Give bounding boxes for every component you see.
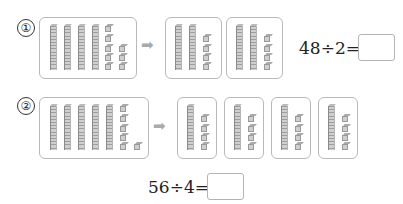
ten-rod bbox=[187, 106, 194, 150]
unit-cube bbox=[134, 144, 140, 150]
problem-number-1: ① bbox=[17, 19, 35, 37]
ten-rod bbox=[92, 26, 99, 70]
ten-rod bbox=[92, 106, 99, 150]
unit-cube bbox=[105, 46, 111, 52]
ten-rod bbox=[78, 106, 85, 150]
ten-rod bbox=[328, 106, 335, 150]
problem-number-2: ② bbox=[17, 97, 35, 115]
unit-cube bbox=[342, 135, 348, 141]
equation-2: 56÷4= bbox=[148, 177, 209, 197]
unit-cube bbox=[264, 36, 270, 42]
unit-cube bbox=[295, 144, 301, 150]
unit-cube bbox=[201, 126, 207, 132]
unit-cube bbox=[203, 55, 209, 61]
unit-cube bbox=[295, 116, 301, 122]
unit-cube bbox=[264, 55, 270, 61]
right-arrow-icon: ➡ bbox=[153, 117, 166, 135]
answer-box-1[interactable] bbox=[358, 34, 395, 61]
unit-cube bbox=[105, 26, 111, 32]
ten-rod bbox=[78, 26, 85, 70]
ten-rod bbox=[64, 106, 71, 150]
ten-rod bbox=[50, 26, 57, 70]
unit-cube bbox=[201, 144, 207, 150]
ten-rod bbox=[106, 106, 113, 150]
unit-cube bbox=[105, 55, 111, 61]
unit-cube bbox=[248, 144, 254, 150]
base-ten-source-2 bbox=[39, 97, 149, 159]
unit-cube bbox=[120, 126, 126, 132]
unit-cube bbox=[248, 135, 254, 141]
unit-cube bbox=[119, 46, 125, 52]
unit-cube bbox=[295, 135, 301, 141]
unit-cube bbox=[120, 135, 126, 141]
unit-cube bbox=[342, 144, 348, 150]
ten-rod bbox=[236, 26, 243, 70]
group-box bbox=[271, 97, 311, 159]
unit-cube bbox=[119, 55, 125, 61]
base-ten-source-1 bbox=[39, 17, 137, 79]
ten-rod bbox=[281, 106, 288, 150]
group-box bbox=[177, 97, 217, 159]
unit-cube bbox=[295, 126, 301, 132]
unit-cube bbox=[120, 106, 126, 112]
group-box bbox=[224, 97, 264, 159]
ten-rod bbox=[250, 26, 257, 70]
unit-cube bbox=[120, 116, 126, 122]
unit-cube bbox=[105, 36, 111, 42]
unit-cube bbox=[201, 135, 207, 141]
ten-rod bbox=[50, 106, 57, 150]
right-arrow-icon: ➡ bbox=[141, 36, 154, 54]
unit-cube bbox=[342, 126, 348, 132]
unit-cube bbox=[203, 46, 209, 52]
ten-rod bbox=[234, 106, 241, 150]
ten-rod bbox=[189, 26, 196, 70]
unit-cube bbox=[203, 64, 209, 70]
unit-cube bbox=[120, 144, 126, 150]
unit-cube bbox=[264, 46, 270, 52]
unit-cube bbox=[203, 36, 209, 42]
equation-1: 48÷2= bbox=[299, 38, 360, 58]
unit-cube bbox=[105, 64, 111, 70]
answer-box-2[interactable] bbox=[207, 173, 244, 200]
unit-cube bbox=[248, 126, 254, 132]
ten-rod bbox=[175, 26, 182, 70]
group-box bbox=[318, 97, 358, 159]
ten-rod bbox=[64, 26, 71, 70]
unit-cube bbox=[264, 64, 270, 70]
unit-cube bbox=[248, 116, 254, 122]
group-box bbox=[226, 17, 283, 79]
unit-cube bbox=[119, 64, 125, 70]
unit-cube bbox=[201, 116, 207, 122]
group-box bbox=[165, 17, 222, 79]
unit-cube bbox=[342, 116, 348, 122]
